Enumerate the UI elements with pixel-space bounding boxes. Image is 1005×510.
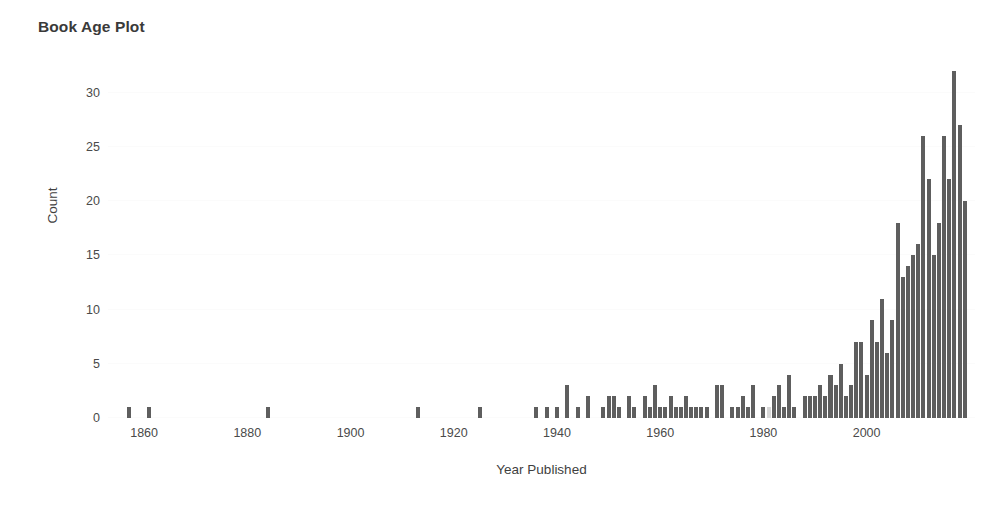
y-tick-label: 20 [40, 194, 100, 208]
bar [870, 320, 874, 418]
bar [607, 396, 611, 418]
bar [643, 396, 647, 418]
bar [885, 353, 889, 418]
bar [545, 407, 549, 418]
bar [844, 396, 848, 418]
bar [576, 407, 580, 418]
bar [963, 201, 967, 418]
bar [565, 385, 569, 418]
bar [689, 407, 693, 418]
bar [658, 407, 662, 418]
bar [947, 179, 951, 418]
x-tick-label: 1980 [723, 426, 803, 440]
bar [911, 255, 915, 418]
bar [787, 375, 791, 418]
bar [777, 385, 781, 418]
plot-area [108, 60, 975, 418]
bar [736, 407, 740, 418]
bar [617, 407, 621, 418]
bar [854, 342, 858, 418]
y-tick-label: 30 [40, 86, 100, 100]
bar [746, 407, 750, 418]
bar [916, 244, 920, 418]
bar [767, 407, 771, 418]
bar [896, 223, 900, 418]
bar [720, 385, 724, 418]
book-age-plot: Book Age Plot Count 051015202530 1860188… [0, 0, 1005, 510]
y-tick-label: 15 [40, 248, 100, 262]
bar [823, 396, 827, 418]
bar [751, 385, 755, 418]
bar [684, 396, 688, 418]
bar [586, 396, 590, 418]
x-tick-label: 1900 [311, 426, 391, 440]
bar [818, 385, 822, 418]
bar [699, 407, 703, 418]
bar [653, 385, 657, 418]
bar [534, 407, 538, 418]
bar [921, 136, 925, 418]
bar [669, 396, 673, 418]
bar [555, 407, 559, 418]
bar [906, 266, 910, 418]
bar [839, 364, 843, 418]
x-tick-label: 1960 [620, 426, 700, 440]
bar [952, 71, 956, 418]
bar [828, 375, 832, 418]
bar [674, 407, 678, 418]
bar [808, 396, 812, 418]
x-tick-label: 1940 [517, 426, 597, 440]
bar [849, 385, 853, 418]
bar [859, 342, 863, 418]
bar [715, 385, 719, 418]
x-axis-label: Year Published [108, 462, 975, 477]
bar [782, 407, 786, 418]
bar [741, 396, 745, 418]
bar [601, 407, 605, 418]
bar [942, 136, 946, 418]
bar [694, 407, 698, 418]
bar [772, 396, 776, 418]
bar [730, 407, 734, 418]
bar [875, 342, 879, 418]
x-tick-label: 1880 [207, 426, 287, 440]
bar [813, 396, 817, 418]
bar [880, 299, 884, 418]
bar [478, 407, 482, 418]
x-tick-label: 1920 [414, 426, 494, 440]
x-tick-label: 1860 [104, 426, 184, 440]
bar [705, 407, 709, 418]
bar [632, 407, 636, 418]
bar [958, 125, 962, 418]
bar [416, 407, 420, 418]
y-tick-label: 5 [40, 357, 100, 371]
bar [761, 407, 765, 418]
bar [865, 375, 869, 418]
bar [612, 396, 616, 418]
page-title: Book Age Plot [38, 18, 145, 36]
bar [937, 223, 941, 418]
x-axis-tick-labels: 18601880190019201940196019802000 [108, 426, 975, 448]
bar-series [108, 60, 975, 418]
bar [901, 277, 905, 418]
bar [792, 407, 796, 418]
bar [679, 407, 683, 418]
bar [147, 407, 151, 418]
y-tick-label: 10 [40, 303, 100, 317]
bar [648, 407, 652, 418]
bar [834, 385, 838, 418]
y-tick-label: 25 [40, 140, 100, 154]
bar [803, 396, 807, 418]
bar [890, 320, 894, 418]
x-tick-label: 2000 [827, 426, 907, 440]
bar [627, 396, 631, 418]
bar [266, 407, 270, 418]
y-tick-label: 0 [40, 411, 100, 425]
bar [663, 407, 667, 418]
bar [932, 255, 936, 418]
y-axis-tick-labels: 051015202530 [28, 60, 100, 418]
bar [127, 407, 131, 418]
bar [927, 179, 931, 418]
